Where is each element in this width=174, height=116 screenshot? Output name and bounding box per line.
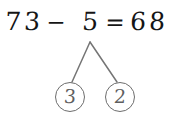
minuend-tens-digit: 7 <box>3 8 22 36</box>
number-bond-node-left: 3 <box>55 82 85 112</box>
branch-line-left <box>72 42 90 82</box>
minuend-ones-digit: 3 <box>22 8 41 36</box>
result-tens-digit: 6 <box>128 8 147 36</box>
minus-operator: − <box>45 8 66 36</box>
number-bond-node-left-value: 3 <box>55 83 85 110</box>
result-ones-digit: 8 <box>147 8 166 36</box>
branch-line-right <box>90 42 117 82</box>
worksheet-canvas: 7 3 − 5 = 6 8 3 2 <box>0 0 174 116</box>
equation-row: 7 3 − 5 = 6 8 <box>0 8 174 38</box>
equals-operator: = <box>103 8 126 36</box>
number-bond-node-right: 2 <box>105 82 135 112</box>
number-bond-node-right-value: 2 <box>105 83 135 110</box>
subtrahend-digit: 5 <box>80 8 99 36</box>
